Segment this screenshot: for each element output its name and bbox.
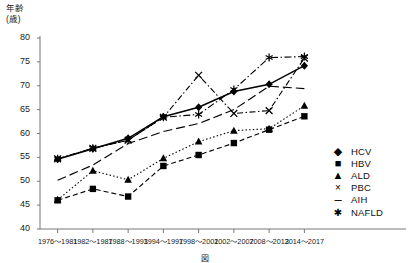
- marker-square: [125, 193, 131, 199]
- marker-square: [90, 186, 96, 192]
- diamond-icon: ◆: [330, 146, 346, 157]
- marker-square: [195, 152, 201, 158]
- series-line: [58, 57, 305, 159]
- chart-root: 年齢 (歳) 404550556065707580 1976～19811982～…: [0, 0, 409, 263]
- legend-label: NAFLD: [346, 207, 383, 218]
- marker-diamond: [195, 103, 202, 111]
- triangle-icon: ▲: [330, 170, 346, 181]
- marker-diamond: [301, 62, 308, 70]
- marker-triangle: [124, 176, 132, 183]
- marker-triangle: [160, 154, 168, 161]
- plot-area: [0, 0, 409, 263]
- marker-square: [231, 140, 237, 146]
- marker-diamond: [266, 80, 273, 88]
- series-line: [58, 86, 305, 180]
- legend-item-hcv: ◆HCV: [330, 145, 383, 157]
- marker-triangle: [230, 127, 238, 134]
- legend-label: ALD: [346, 170, 370, 181]
- marker-square: [160, 163, 166, 169]
- marker-square: [301, 113, 307, 119]
- figure-caption: 図: [0, 252, 409, 263]
- legend-label: PBC: [346, 182, 371, 193]
- legend-item-aih: –AIH: [330, 194, 383, 206]
- chart-legend: ◆HCV■HBV▲ALD×PBC–AIH✱NAFLD: [330, 145, 383, 218]
- marker-x: [195, 72, 202, 79]
- marker-asterisk: [195, 110, 202, 118]
- legend-item-nafld: ✱NAFLD: [330, 206, 383, 218]
- dash-icon: –: [330, 194, 346, 205]
- legend-item-ald: ▲ALD: [330, 169, 383, 181]
- series-AIH: [58, 86, 305, 180]
- marker-triangle: [301, 102, 309, 109]
- legend-item-hbv: ■HBV: [330, 157, 383, 169]
- legend-label: HBV: [346, 158, 371, 169]
- asterisk-icon: ✱: [330, 207, 346, 218]
- legend-label: HCV: [346, 146, 372, 157]
- marker-triangle: [195, 138, 203, 145]
- square-icon: ■: [330, 158, 346, 169]
- legend-label: AIH: [346, 194, 367, 205]
- marker-triangle: [89, 167, 97, 174]
